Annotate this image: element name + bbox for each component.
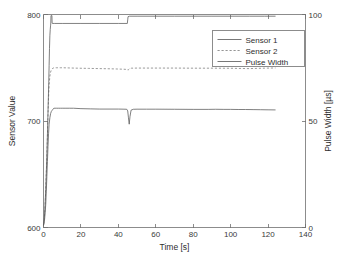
y-axis-left-label: Sensor Value	[7, 96, 17, 147]
legend-label-2[interactable]: Sensor 2	[246, 47, 279, 56]
x-tick-label: 0	[41, 230, 46, 239]
legend-label-1[interactable]: Sensor 1	[246, 36, 279, 45]
x-tick-label: 100	[224, 230, 238, 239]
x-axis-label: Time [s]	[160, 242, 190, 252]
x-tick-label: 60	[151, 230, 160, 239]
y-tick-label: 600	[27, 224, 41, 233]
y2-tick-label: 100	[309, 11, 323, 20]
legend[interactable]: Sensor 1Sensor 2Pulse Width	[213, 31, 305, 67]
x-tick-label: 40	[114, 230, 123, 239]
x-tick-label: 80	[189, 230, 198, 239]
x-tick-label: 120	[261, 230, 275, 239]
y-axis-right-label: Pulse Width [µs]	[323, 90, 333, 152]
figure-container: 020406080100120140 600700800 050100 Time…	[0, 0, 342, 264]
y-tick-label: 800	[27, 11, 41, 20]
y2-tick-label: 50	[309, 117, 318, 126]
x-tick-label: 20	[76, 230, 85, 239]
legend-label-3[interactable]: Pulse Width	[246, 58, 289, 67]
y2-tick-label: 0	[309, 224, 314, 233]
y-tick-label: 700	[27, 117, 41, 126]
chart-canvas: 020406080100120140 600700800 050100 Time…	[0, 0, 342, 264]
